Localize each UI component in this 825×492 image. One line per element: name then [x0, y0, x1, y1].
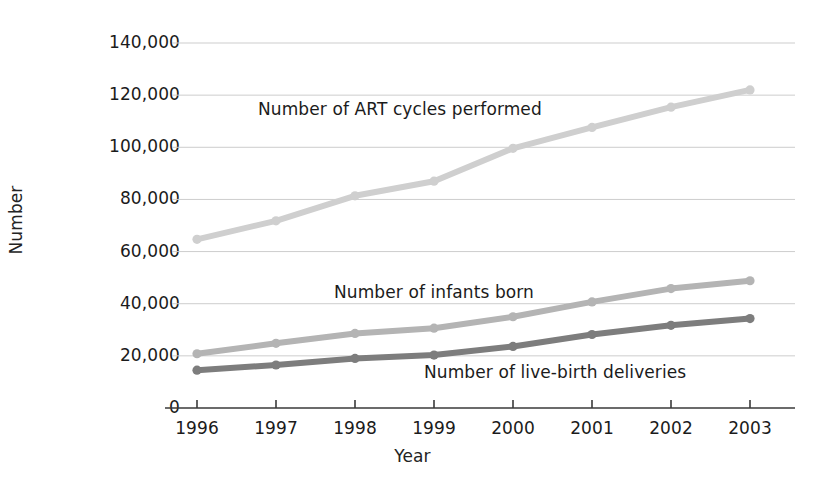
series-point	[271, 216, 280, 225]
series-point	[271, 360, 280, 369]
series-point	[508, 144, 517, 153]
series-point	[271, 339, 280, 348]
series-point	[745, 314, 754, 323]
x-tick-label: 2001	[552, 418, 632, 438]
series-point	[745, 276, 754, 285]
chart-container: Number 140,000 120,000 100,000 80,000 60…	[0, 0, 825, 492]
x-tick-label: 2002	[631, 418, 711, 438]
series-point	[350, 329, 359, 338]
series-point	[587, 123, 596, 132]
x-axis-title: Year	[0, 446, 825, 466]
series-point	[508, 312, 517, 321]
x-tick-label: 1996	[157, 418, 237, 438]
series-point	[429, 350, 438, 359]
x-tick-label: 1998	[315, 418, 395, 438]
x-tick-label: 1999	[394, 418, 474, 438]
x-tick-label: 2000	[473, 418, 553, 438]
series-point	[350, 354, 359, 363]
x-tick-label: 2003	[710, 418, 790, 438]
series-label-live-birth-deliveries: Number of live-birth deliveries	[424, 362, 686, 382]
series-point	[192, 366, 201, 375]
series-point	[429, 324, 438, 333]
series-point	[192, 349, 201, 358]
series-point	[192, 235, 201, 244]
series-point	[587, 297, 596, 306]
series-label-infants-born: Number of infants born	[334, 282, 534, 302]
series-point	[666, 321, 675, 330]
series-point	[666, 103, 675, 112]
series-point	[666, 284, 675, 293]
series-point	[587, 330, 596, 339]
series-point	[508, 342, 517, 351]
series-label-art-cycles: Number of ART cycles performed	[258, 99, 542, 119]
x-tick-label: 1997	[236, 418, 316, 438]
series-point	[745, 85, 754, 94]
series-point	[350, 191, 359, 200]
series-point	[429, 177, 438, 186]
